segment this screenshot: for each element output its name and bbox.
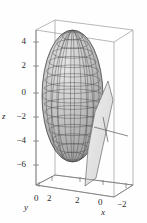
- z-tick-label-m4: −4: [10, 136, 26, 145]
- y-axis-label: y: [24, 203, 28, 212]
- z-axis-label: z: [2, 112, 6, 121]
- z-tick-label-0: 0: [10, 88, 26, 97]
- x-tick-label-2: 2: [75, 196, 80, 205]
- x-tick-label-0: 0: [98, 198, 103, 207]
- z-axis: [33, 30, 39, 185]
- z-tick-label-m2: −2: [10, 112, 26, 121]
- box-floor-right: [114, 185, 133, 197]
- figure-container: 4 2 0 −2 −4 −6 z y x 0 2 2 0 −2: [0, 0, 147, 223]
- z-tick-label-2: 2: [10, 61, 26, 70]
- z-tick-label-m6: −6: [10, 160, 26, 169]
- x-tick-label-m2: −2: [117, 200, 127, 209]
- z-tick-label-4: 4: [10, 37, 26, 46]
- y-tick-label-2: 2: [47, 194, 52, 203]
- y-tick-label-0: 0: [34, 194, 39, 203]
- x-axis-label: x: [101, 208, 105, 217]
